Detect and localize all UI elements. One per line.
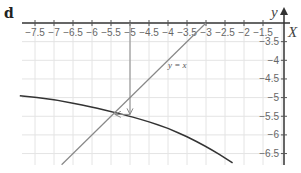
y-equals-x-line xyxy=(62,23,206,165)
chart: −7.5−7−6.5−6−5.5−5−4.5−4−3.5−3−2.5−2−1.5… xyxy=(0,0,301,173)
y-tick-label: −4.5 xyxy=(259,73,279,84)
x-tick-label: −3 xyxy=(200,27,212,38)
x-tick-label: −5.5 xyxy=(101,27,121,38)
x-tick-label: −6.5 xyxy=(63,27,83,38)
y-tick-label: −5.5 xyxy=(259,111,279,122)
y-tick-label: −4 xyxy=(268,55,280,66)
curve-line xyxy=(20,96,233,163)
y-tick-label: −6.5 xyxy=(259,148,279,159)
x-tick-label: −3.5 xyxy=(177,27,197,38)
y-tick-label: −3.5 xyxy=(259,36,279,47)
y-tick-label: −5 xyxy=(268,92,280,103)
y-axis-arrow-icon xyxy=(280,7,288,15)
y-tick-label: −6 xyxy=(268,129,280,140)
x-tick-label: −4 xyxy=(162,27,174,38)
y-axis-label: y xyxy=(269,4,278,20)
x-tick-label: −2 xyxy=(238,27,250,38)
line-label: y = x xyxy=(167,60,187,70)
x-tick-label: −7.5 xyxy=(25,27,45,38)
x-tick-label: −7 xyxy=(48,27,60,38)
x-tick-label: −4.5 xyxy=(139,27,159,38)
x-tick-label: −2.5 xyxy=(215,27,235,38)
x-tick-label: −6 xyxy=(86,27,98,38)
x-axis-label: X xyxy=(287,24,298,40)
